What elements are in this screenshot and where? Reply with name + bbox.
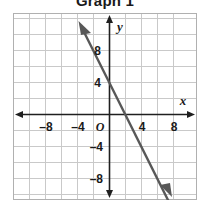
graph-figure: Graph 1 bbox=[0, 0, 210, 213]
y-tick-label-pos8: 8 bbox=[94, 44, 101, 58]
x-tick-label-pos8: 8 bbox=[171, 120, 178, 134]
page-title: Graph 1 bbox=[0, 0, 210, 9]
y-tick-label-neg4: –4 bbox=[90, 140, 104, 154]
coordinate-plane-svg: x y –8 –4 O 4 8 8 4 –4 –8 bbox=[13, 13, 197, 200]
y-tick-label-pos4: 4 bbox=[94, 76, 101, 90]
x-tick-label-pos4: 4 bbox=[139, 120, 146, 134]
y-axis-label: y bbox=[115, 19, 123, 34]
plot-background bbox=[13, 13, 197, 200]
x-tick-label-neg4: –4 bbox=[71, 120, 85, 134]
x-axis-label: x bbox=[179, 93, 187, 108]
origin-label: O bbox=[96, 120, 105, 134]
x-tick-label-neg8: –8 bbox=[39, 120, 53, 134]
y-tick-label-neg8: –8 bbox=[90, 172, 104, 186]
coordinate-plane: x y –8 –4 O 4 8 8 4 –4 –8 bbox=[13, 13, 197, 200]
